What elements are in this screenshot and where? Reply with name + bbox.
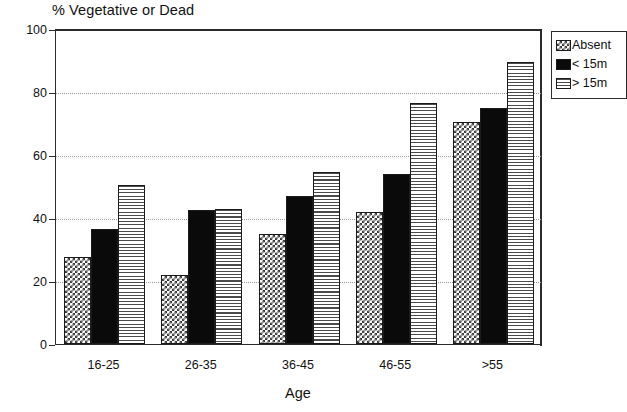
bar <box>118 185 145 344</box>
legend-item-label: > 15m <box>572 77 607 90</box>
y-axis-tick-label: 80 <box>7 86 47 100</box>
solid-black-swatch <box>556 59 571 70</box>
bar <box>507 62 534 344</box>
x-axis-tick-label: 26-35 <box>185 358 217 372</box>
bar <box>480 108 507 344</box>
bar <box>161 275 188 344</box>
bar-group <box>64 30 145 344</box>
x-axis-tick-label: 36-45 <box>282 358 314 372</box>
legend-item-label: < 15m <box>572 58 607 71</box>
y-axis-tick-label: 0 <box>7 338 47 352</box>
y-axis-tick-label: 100 <box>7 23 47 37</box>
y-axis-tick-mark <box>49 345 55 346</box>
bar <box>356 212 383 344</box>
chart-legend: Absent< 15m> 15m <box>551 31 627 99</box>
y-axis-tick-label: 40 <box>7 212 47 226</box>
plot-area <box>55 30 541 345</box>
x-axis-tick-label: >55 <box>482 358 503 372</box>
bar <box>188 210 215 344</box>
bar <box>286 196 313 344</box>
bar <box>259 234 286 344</box>
y-axis-tick-label: 60 <box>7 149 47 163</box>
checker-pattern-swatch <box>556 40 571 51</box>
legend-item-label: Absent <box>572 39 611 52</box>
bar <box>410 103 437 344</box>
bar <box>64 257 91 344</box>
x-axis-title: Age <box>285 385 311 401</box>
legend-item: Absent <box>556 36 623 55</box>
bar-group <box>259 30 340 344</box>
bar-group <box>453 30 534 344</box>
x-axis-tick-label: 46-55 <box>379 358 411 372</box>
chart-title: % Vegetative or Dead <box>52 2 194 18</box>
bar <box>453 122 480 344</box>
horizontal-lines-swatch <box>556 78 571 89</box>
bar-group <box>356 30 437 344</box>
bar <box>215 209 242 344</box>
bar <box>313 172 340 344</box>
legend-item: < 15m <box>556 55 623 74</box>
bar <box>383 174 410 344</box>
x-axis-tick-label: 16-25 <box>88 358 120 372</box>
legend-item: > 15m <box>556 74 623 93</box>
bar <box>91 229 118 344</box>
bar-group <box>161 30 242 344</box>
y-axis-tick-label: 20 <box>7 275 47 289</box>
